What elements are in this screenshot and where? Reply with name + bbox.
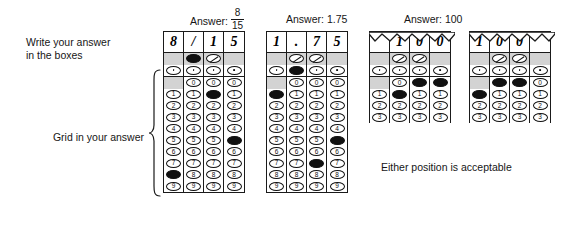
bubble-digit0-col3[interactable]: 0 — [412, 78, 427, 87]
bubble-digit4-col3[interactable]: 4 — [309, 124, 324, 133]
bubble-digit8-col3[interactable]: 8 — [309, 170, 324, 179]
bubble-fractionbar-col1[interactable] — [269, 54, 284, 63]
bubble-digit4-col1[interactable]: 4 — [166, 124, 181, 133]
bubble-decimal-col4[interactable] — [227, 66, 242, 75]
bubble-digit1-col4[interactable]: 1 — [433, 90, 448, 99]
bubble-decimal-col3[interactable] — [206, 66, 221, 75]
bubble-digit1-col3[interactable]: 1 — [512, 90, 527, 99]
bubble-digit6-col3[interactable]: 6 — [206, 147, 221, 156]
bubble-decimal-col1[interactable] — [166, 66, 181, 75]
bubble-digit2-col4[interactable]: 2 — [533, 101, 548, 110]
bubble-fractionbar-col3[interactable] — [309, 54, 324, 63]
bubble-digit2-col1[interactable]: 2 — [269, 101, 284, 110]
bubble-decimal-col2[interactable] — [289, 66, 304, 75]
bubble-digit4-col4[interactable]: 4 — [330, 124, 345, 133]
handwriting-cell-2[interactable]: 1 — [390, 32, 410, 52]
bubble-digit0-col1[interactable] — [372, 78, 387, 87]
bubble-decimal-col4[interactable] — [433, 66, 448, 75]
bubble-digit2-col3[interactable]: 2 — [412, 101, 427, 110]
bubble-decimal-col1[interactable] — [372, 66, 387, 75]
bubble-fractionbar-col4[interactable] — [330, 54, 345, 63]
bubble-fractionbar-col3[interactable] — [206, 54, 221, 63]
bubble-digit1-col1[interactable]: 1 — [372, 90, 387, 99]
bubble-digit1-col4[interactable]: 1 — [227, 90, 242, 99]
bubble-digit5-col3[interactable]: 5 — [309, 136, 324, 145]
bubble-digit8-col4[interactable]: 8 — [227, 170, 242, 179]
bubble-digit3-col3[interactable]: 3 — [309, 113, 324, 122]
bubble-digit0-col2[interactable]: 0 — [392, 78, 407, 87]
bubble-decimal-col2[interactable] — [186, 66, 201, 75]
bubble-digit3-col3[interactable]: 3 — [206, 113, 221, 122]
bubble-digit1-col3[interactable]: 1 — [206, 90, 221, 99]
bubble-digit9-col4[interactable]: 9 — [227, 182, 242, 191]
bubble-decimal-col1[interactable] — [269, 66, 284, 75]
bubble-digit3-col4[interactable]: 3 — [433, 113, 448, 122]
bubble-digit0-col2[interactable]: 0 — [492, 78, 507, 87]
bubble-fractionbar-col4[interactable] — [433, 54, 448, 63]
bubble-digit9-col1[interactable]: 9 — [166, 182, 181, 191]
bubble-digit6-col4[interactable]: 6 — [330, 147, 345, 156]
bubble-digit8-col1[interactable]: 8 — [166, 170, 181, 179]
bubble-digit7-col2[interactable]: 7 — [186, 159, 201, 168]
handwriting-cell-1[interactable] — [370, 32, 390, 52]
bubble-digit3-col4[interactable]: 3 — [330, 113, 345, 122]
bubble-digit3-col2[interactable]: 3 — [289, 113, 304, 122]
handwriting-cell-4[interactable]: 5 — [327, 32, 347, 52]
bubble-digit3-col1[interactable]: 3 — [472, 113, 487, 122]
bubble-digit1-col1[interactable]: 1 — [269, 90, 284, 99]
bubble-digit0-col3[interactable]: 0 — [309, 78, 324, 87]
bubble-digit8-col1[interactable]: 8 — [269, 170, 284, 179]
bubble-digit5-col4[interactable]: 5 — [227, 136, 242, 145]
bubble-digit1-col4[interactable]: 1 — [533, 90, 548, 99]
bubble-digit2-col2[interactable]: 2 — [289, 101, 304, 110]
bubble-digit8-col2[interactable]: 8 — [186, 170, 201, 179]
bubble-digit3-col2[interactable]: 3 — [492, 113, 507, 122]
bubble-digit0-col2[interactable]: 0 — [289, 78, 304, 87]
bubble-digit3-col4[interactable]: 3 — [227, 113, 242, 122]
bubble-digit3-col3[interactable]: 3 — [512, 113, 527, 122]
handwriting-cell-1[interactable]: 1 — [470, 32, 490, 52]
bubble-digit1-col2[interactable]: 1 — [492, 90, 507, 99]
bubble-fractionbar-col1[interactable] — [166, 54, 181, 63]
bubble-digit0-col2[interactable]: 0 — [186, 78, 201, 87]
bubble-digit2-col3[interactable]: 2 — [512, 101, 527, 110]
handwriting-cell-1[interactable]: 1 — [267, 32, 287, 52]
bubble-digit3-col1[interactable]: 3 — [269, 113, 284, 122]
bubble-digit2-col2[interactable]: 2 — [186, 101, 201, 110]
bubble-digit3-col2[interactable]: 3 — [186, 113, 201, 122]
bubble-digit2-col2[interactable]: 2 — [492, 101, 507, 110]
bubble-digit9-col3[interactable]: 9 — [206, 182, 221, 191]
bubble-digit6-col1[interactable]: 6 — [166, 147, 181, 156]
bubble-digit2-col1[interactable]: 2 — [472, 101, 487, 110]
bubble-digit3-col2[interactable]: 3 — [392, 113, 407, 122]
bubble-decimal-col3[interactable] — [309, 66, 324, 75]
bubble-digit6-col1[interactable]: 6 — [269, 147, 284, 156]
bubble-digit9-col2[interactable]: 9 — [186, 182, 201, 191]
bubble-digit8-col4[interactable]: 8 — [330, 170, 345, 179]
bubble-decimal-col2[interactable] — [392, 66, 407, 75]
bubble-digit6-col2[interactable]: 6 — [289, 147, 304, 156]
bubble-digit0-col4[interactable]: 0 — [330, 78, 345, 87]
bubble-digit6-col4[interactable]: 6 — [227, 147, 242, 156]
bubble-digit0-col3[interactable]: 0 — [206, 78, 221, 87]
bubble-digit9-col4[interactable]: 9 — [330, 182, 345, 191]
bubble-digit2-col4[interactable]: 2 — [433, 101, 448, 110]
bubble-digit9-col1[interactable]: 9 — [269, 182, 284, 191]
bubble-digit2-col3[interactable]: 2 — [309, 101, 324, 110]
bubble-digit9-col3[interactable]: 9 — [309, 182, 324, 191]
bubble-fractionbar-col3[interactable] — [412, 54, 427, 63]
bubble-digit5-col1[interactable]: 5 — [269, 136, 284, 145]
bubble-fractionbar-col2[interactable] — [186, 54, 201, 63]
bubble-fractionbar-col2[interactable] — [492, 54, 507, 63]
bubble-decimal-col3[interactable] — [512, 66, 527, 75]
bubble-decimal-col4[interactable] — [533, 66, 548, 75]
bubble-digit2-col4[interactable]: 2 — [330, 101, 345, 110]
bubble-digit7-col1[interactable]: 7 — [166, 159, 181, 168]
bubble-digit5-col2[interactable]: 5 — [186, 136, 201, 145]
bubble-digit1-col3[interactable]: 1 — [412, 90, 427, 99]
bubble-digit0-col4[interactable]: 0 — [533, 78, 548, 87]
bubble-digit8-col3[interactable]: 8 — [206, 170, 221, 179]
bubble-digit0-col1[interactable] — [269, 78, 284, 87]
bubble-digit1-col1[interactable]: 1 — [166, 90, 181, 99]
bubble-digit2-col1[interactable]: 2 — [166, 101, 181, 110]
